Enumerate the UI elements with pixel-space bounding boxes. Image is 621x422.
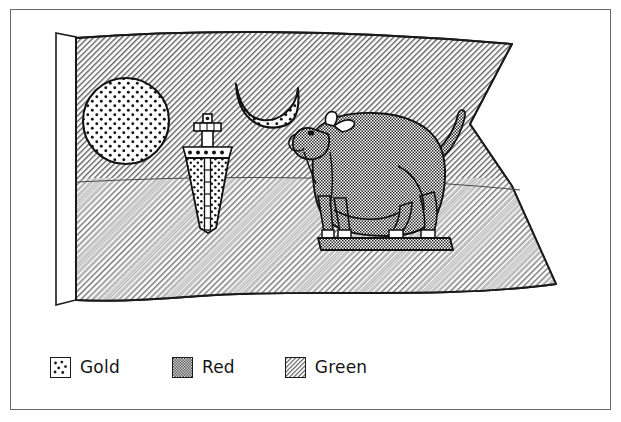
legend-label-gold: Gold xyxy=(80,359,120,376)
legend-item-red: Red xyxy=(172,357,235,378)
legend-item-gold: Gold xyxy=(50,357,120,378)
plinth xyxy=(318,238,453,250)
gold-swatch-icon xyxy=(50,357,71,378)
flag-hoist-sleeve xyxy=(56,33,76,305)
legend-item-green: Green xyxy=(285,357,367,378)
green-swatch-icon xyxy=(285,357,306,378)
figure-root: Gold Red xyxy=(0,0,621,422)
legend-label-green: Green xyxy=(315,359,367,376)
sun-disc-charge xyxy=(83,78,169,164)
red-swatch-icon xyxy=(172,357,193,378)
flag-group xyxy=(56,32,556,305)
legend: Gold Red xyxy=(50,352,390,382)
legend-label-red: Red xyxy=(202,359,235,376)
